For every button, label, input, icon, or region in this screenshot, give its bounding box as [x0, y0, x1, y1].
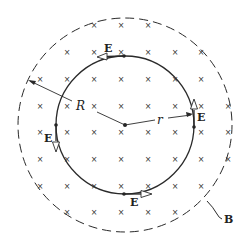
field-cross-mark: ×	[225, 155, 232, 164]
field-cross-mark: ×	[64, 75, 71, 84]
field-cross-mark: ×	[118, 75, 125, 84]
field-cross-mark: ×	[172, 102, 179, 111]
field-cross-mark: ×	[91, 208, 98, 217]
field-cross-mark: ×	[37, 75, 44, 84]
e-field-vector-left	[53, 123, 60, 152]
field-cross-mark: ×	[198, 182, 205, 191]
field-cross-mark: ×	[91, 102, 98, 111]
field-cross-mark: ×	[145, 128, 152, 137]
field-cross-mark: ×	[145, 208, 152, 217]
field-cross-mark: ×	[64, 208, 71, 217]
field-cross-mark: ×	[37, 128, 44, 137]
field-cross-mark: ×	[225, 102, 232, 111]
field-cross-mark: ×	[145, 48, 152, 57]
induced-electric-field-diagram: ××××××××××××××××××××××××××××××××××××××××…	[0, 0, 247, 245]
field-cross-mark: ×	[64, 128, 71, 137]
radius-R-label: R	[75, 99, 85, 113]
radius-r-label: r	[157, 113, 164, 127]
field-cross-mark: ×	[198, 128, 205, 137]
field-cross-mark: ×	[64, 48, 71, 57]
field-cross-mark: ×	[118, 21, 125, 30]
field-cross-mark: ×	[225, 128, 232, 137]
field-cross-mark: ×	[118, 128, 125, 137]
field-cross-mark: ×	[172, 48, 179, 57]
field-cross-mark: ×	[118, 208, 125, 217]
e-field-label-left: E	[44, 132, 52, 145]
field-cross-mark: ×	[172, 182, 179, 191]
field-cross-mark: ×	[91, 21, 98, 30]
field-cross-mark: ×	[198, 155, 205, 164]
field-cross-mark: ×	[64, 102, 71, 111]
field-cross-mark: ×	[145, 155, 152, 164]
field-cross-mark: ×	[198, 75, 205, 84]
field-cross-mark: ×	[145, 102, 152, 111]
field-cross-mark: ×	[172, 128, 179, 137]
field-cross-mark: ×	[91, 128, 98, 137]
field-cross-mark: ×	[91, 48, 98, 57]
b-label-leader-line	[207, 201, 222, 219]
e-field-label-right: E	[197, 111, 205, 124]
field-cross-mark: ×	[118, 182, 125, 191]
field-cross-mark: ×	[91, 155, 98, 164]
magnetic-field-label-b: B	[224, 213, 233, 226]
e-field-label-bottom: E	[130, 196, 138, 209]
field-cross-mark: ×	[172, 208, 179, 217]
field-cross-mark: ×	[64, 182, 71, 191]
field-cross-mark: ×	[145, 75, 152, 84]
field-cross-mark: ×	[198, 102, 205, 111]
field-cross-mark: ×	[118, 155, 125, 164]
field-cross-mark: ×	[91, 75, 98, 84]
field-cross-mark: ×	[172, 155, 179, 164]
field-cross-mark: ×	[118, 102, 125, 111]
field-cross-mark: ×	[145, 21, 152, 30]
field-cross-mark: ×	[37, 155, 44, 164]
e-field-label-top: E	[104, 42, 112, 55]
field-cross-mark: ×	[37, 102, 44, 111]
